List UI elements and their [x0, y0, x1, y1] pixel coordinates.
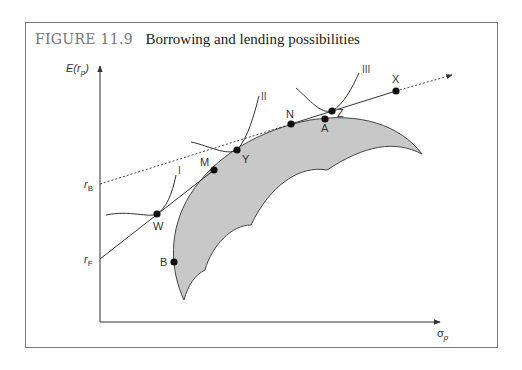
label-w: W	[153, 220, 164, 232]
rb-label: rB	[84, 178, 93, 193]
point-b	[170, 258, 177, 265]
label-z: Z	[337, 107, 344, 119]
point-x	[392, 87, 399, 94]
label-m: M	[200, 156, 209, 168]
feasible-set-region	[173, 118, 422, 300]
label-curve-i: I	[178, 165, 181, 176]
label-x: X	[392, 73, 400, 85]
borrowing-line-extension	[396, 75, 452, 91]
point-n	[287, 120, 294, 127]
label-a: A	[321, 122, 329, 134]
y-axis-label: E(rp)	[66, 62, 89, 77]
label-n: N	[286, 108, 294, 120]
point-m	[210, 166, 217, 173]
point-z	[328, 107, 335, 114]
chart-canvas: W M Y N A Z X B I II III E(rp) σp rB rF	[0, 0, 522, 370]
point-y	[233, 146, 240, 153]
label-b: B	[160, 256, 167, 268]
label-curve-ii: II	[261, 91, 267, 102]
point-w	[153, 210, 160, 217]
indifference-curve-i	[106, 175, 176, 215]
label-curve-iii: III	[362, 64, 370, 75]
x-axis-label: σp	[437, 327, 449, 342]
label-y: Y	[242, 153, 250, 165]
rf-label: rF	[84, 253, 93, 268]
